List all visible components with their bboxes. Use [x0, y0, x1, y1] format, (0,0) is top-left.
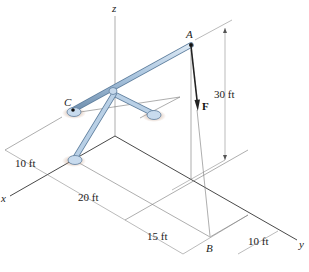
x-offset-dimension-label: 10 ft	[15, 157, 35, 169]
height-dimension-label: 30 ft	[214, 88, 234, 100]
x-span-dimension-label: 20 ft	[78, 191, 98, 203]
support-right	[147, 111, 161, 120]
force-f-label: F	[202, 100, 209, 112]
x-offset-dimension: 10 ft	[5, 150, 48, 175]
y-axis-label: y	[298, 238, 304, 250]
z-axis-label: z	[111, 2, 117, 14]
y-span-dimension: 15 ft	[125, 220, 183, 254]
force-f-arrow: F	[191, 46, 209, 112]
x-span-dimension: 20 ft	[48, 175, 125, 220]
support-c	[67, 108, 81, 117]
point-c-label: C	[64, 96, 72, 108]
x-axis-label: x	[0, 192, 6, 204]
y-span-dimension-label: 15 ft	[147, 230, 167, 242]
support-front	[68, 156, 82, 165]
y-offset-dimension-label: 10 ft	[248, 235, 268, 247]
tripod-force-diagram: z x y 30 ft 10 ft 20 ft	[0, 0, 309, 272]
point-a-label: A	[185, 28, 193, 40]
frame-members	[73, 45, 191, 158]
z-axis: z	[111, 2, 117, 136]
point-b-label: B	[206, 242, 213, 254]
